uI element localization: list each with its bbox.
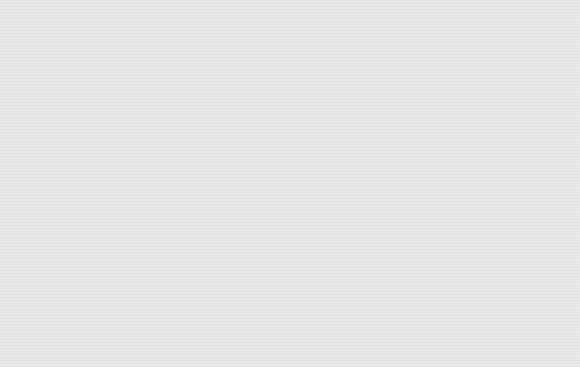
bar-bottom-shadow bbox=[148, 44, 550, 53]
category-label-major-customers: Major Customers bbox=[40, 245, 135, 291]
bar-cap-top bbox=[434, 84, 444, 92]
category-label-industry: Industry bbox=[65, 34, 135, 57]
tick-label-40: 40 bbox=[408, 312, 430, 335]
bar-cap-face bbox=[434, 91, 444, 121]
bar-bottom-shadow bbox=[148, 279, 345, 288]
tick-label-0: 0 bbox=[142, 312, 153, 335]
category-label-geographic: Geographic bbox=[34, 110, 135, 133]
bar-cap-face bbox=[328, 167, 338, 197]
bar-value-label: 43% bbox=[354, 95, 424, 116]
bar-bottom-shadow bbox=[148, 196, 338, 205]
bar-cap-top bbox=[328, 160, 338, 168]
plot-right-3d-edge bbox=[566, 0, 575, 306]
bar-cap-top bbox=[540, 8, 550, 16]
y-axis-line bbox=[146, 0, 149, 306]
bar-cap-face bbox=[335, 250, 345, 280]
bar-bottom-shadow bbox=[148, 120, 444, 129]
tick-label-60: 60 bbox=[541, 312, 563, 335]
bar-value-label: 27% bbox=[248, 171, 318, 192]
category-label-export-sales: Export Sales bbox=[24, 184, 135, 207]
tick-label-20: 20 bbox=[275, 312, 297, 335]
gridline-60 bbox=[551, 0, 553, 306]
chart-footnote: *Total exceeds 100% because companies ca… bbox=[0, 345, 580, 365]
plot-area: 59% 43% 27% 28% bbox=[148, 0, 566, 306]
bar-value-label: 59% bbox=[460, 19, 530, 40]
bar-cap-face bbox=[540, 15, 550, 45]
x-axis-shadow bbox=[146, 306, 575, 313]
bar-cap-top bbox=[335, 243, 345, 251]
bar-value-label: 28% bbox=[255, 254, 325, 275]
bar-chart: 59% 43% 27% 28% bbox=[0, 0, 580, 367]
x-axis-line bbox=[146, 303, 566, 306]
